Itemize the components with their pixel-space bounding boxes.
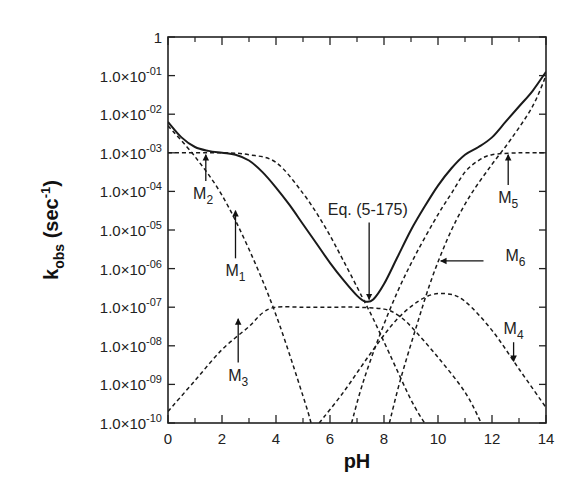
x-tick-label: 8 xyxy=(380,430,388,447)
plot-border xyxy=(168,37,546,423)
label-m1: M1 xyxy=(225,262,245,284)
y-tick-label: 1.0×10-01 xyxy=(100,65,162,85)
y-tick-label: 1.0×10-10 xyxy=(100,412,162,432)
x-tick-label: 2 xyxy=(218,430,226,447)
label-m4: M4 xyxy=(504,320,524,342)
y-tick-label: 1.0×10-03 xyxy=(100,142,162,162)
x-tick-label: 14 xyxy=(538,430,555,447)
series-m6 xyxy=(389,76,546,423)
y-tick-label: 1.0×10-06 xyxy=(100,258,162,278)
annotation-layer: M1M2M3M4M5M6Eq. (5-175) xyxy=(193,155,526,389)
x-axis-ticks: 02468101214 xyxy=(164,37,555,447)
x-tick-label: 0 xyxy=(164,430,172,447)
y-tick-label: 1.0×10-02 xyxy=(100,103,162,123)
y-tick-label: 1.0×10-05 xyxy=(100,219,162,239)
kobs-vs-ph-chart: 11.0×10-011.0×10-021.0×10-031.0×10-041.0… xyxy=(0,0,582,483)
label-m3: M3 xyxy=(228,367,248,389)
series-m3 xyxy=(168,307,481,423)
x-tick-label: 12 xyxy=(484,430,501,447)
x-tick-label: 6 xyxy=(326,430,334,447)
y-axis-title: kobs (sec-1) xyxy=(38,180,67,280)
label-eq-5-175-: Eq. (5-175) xyxy=(328,201,408,218)
y-axis-title-text: kobs (sec-1) xyxy=(38,180,67,280)
label-m2: M2 xyxy=(193,185,213,207)
series-layer xyxy=(168,72,546,423)
x-tick-label: 10 xyxy=(430,430,447,447)
y-tick-label: 1 xyxy=(154,29,162,46)
label-m6: M6 xyxy=(506,247,526,269)
series-m4 xyxy=(319,293,546,423)
y-tick-label: 1.0×10-08 xyxy=(100,335,162,355)
plot-frame xyxy=(168,37,546,423)
y-tick-label: 1.0×10-04 xyxy=(100,180,162,200)
label-m5: M5 xyxy=(498,189,518,211)
y-tick-label: 1.0×10-07 xyxy=(100,296,162,316)
y-axis-ticks: 11.0×10-011.0×10-021.0×10-031.0×10-041.0… xyxy=(100,29,546,432)
x-axis-title: pH xyxy=(344,450,371,472)
x-tick-label: 4 xyxy=(272,430,280,447)
y-tick-label: 1.0×10-09 xyxy=(100,373,162,393)
